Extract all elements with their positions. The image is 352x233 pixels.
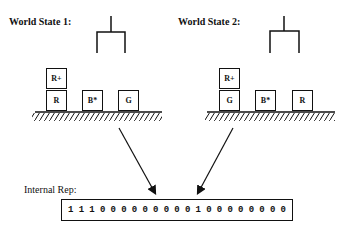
bit: 0 <box>259 205 264 215</box>
bit: 0 <box>249 205 254 215</box>
bit: 1 <box>89 205 94 215</box>
world-state-2-title: World State 2: <box>178 16 240 27</box>
block-stack-top: R+ <box>46 68 67 89</box>
bit: 0 <box>217 205 222 215</box>
block: B* <box>82 90 103 111</box>
block-stack-bottom: G <box>219 90 240 111</box>
bit: 0 <box>111 205 116 215</box>
block: R <box>292 90 313 111</box>
bit: 0 <box>174 205 179 215</box>
block: G <box>118 90 139 111</box>
internal-rep-label: Internal Rep: <box>24 184 76 195</box>
block-stack-bottom: R <box>46 90 67 111</box>
bit: 0 <box>185 205 190 215</box>
internal-rep-bitvector: 1 1 1 0 0 0 0 0 0 0 0 0 1 0 0 0 0 0 0 0 … <box>61 199 293 221</box>
bit: 0 <box>281 205 286 215</box>
bit: 0 <box>164 205 169 215</box>
block: B* <box>255 90 276 111</box>
block-stack-top: R+ <box>219 68 240 89</box>
bit: 0 <box>238 205 243 215</box>
gripper-icon-2 <box>270 16 299 53</box>
bit: 0 <box>142 205 147 215</box>
bit: 0 <box>270 205 275 215</box>
bit: 1 <box>196 205 201 215</box>
bit: 0 <box>100 205 105 215</box>
bit: 0 <box>227 205 232 215</box>
bit: 1 <box>68 205 73 215</box>
gripper-icon-1 <box>97 16 125 53</box>
bit: 0 <box>153 205 158 215</box>
bit: 0 <box>132 205 137 215</box>
world-state-1-title: World State 1: <box>9 16 71 27</box>
bit: 1 <box>79 205 84 215</box>
bit: 0 <box>206 205 211 215</box>
bit: 0 <box>121 205 126 215</box>
